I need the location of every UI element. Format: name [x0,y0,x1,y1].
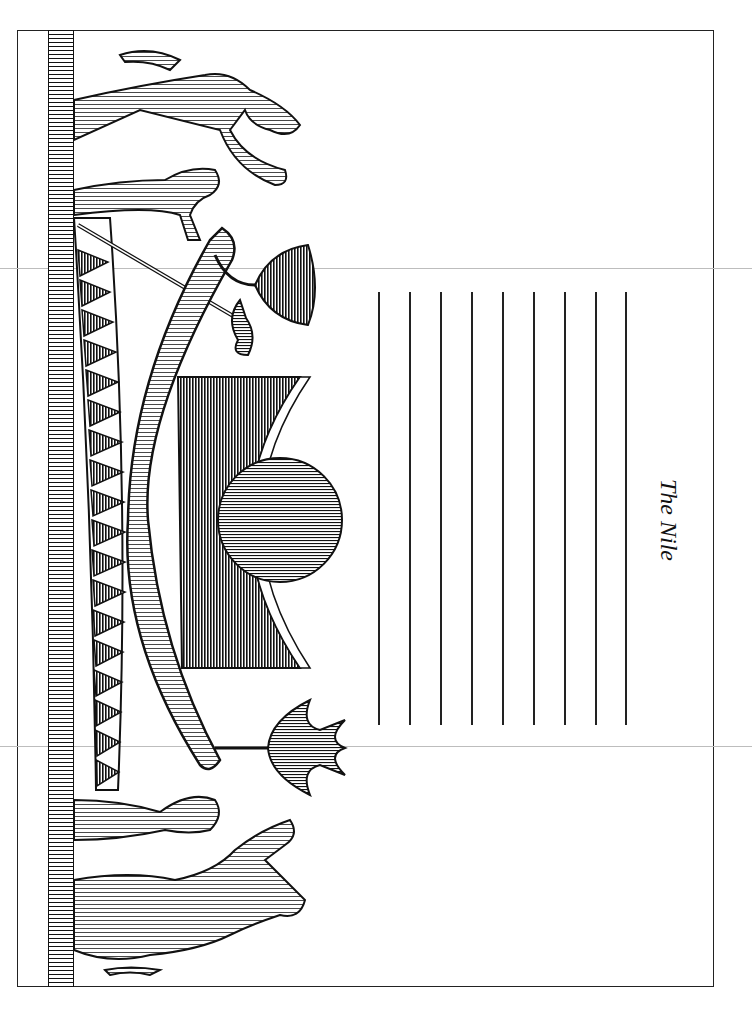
sun-disk [218,458,342,582]
writing-line [440,292,442,725]
writing-line [409,292,411,725]
nile-illustration [0,0,752,1023]
page-title: The Nile [655,479,682,561]
lotus-flower [215,700,345,795]
writing-line [625,292,627,725]
writing-line [502,292,504,725]
writing-line [595,292,597,725]
zigzag-triangle-band [74,218,125,790]
baboon-bottom-small [74,797,219,840]
baboon-top-large [74,74,300,185]
writing-line [378,292,380,725]
writing-line [533,292,535,725]
writing-line [471,292,473,725]
writing-line [564,292,566,725]
baboon-bottom-large [74,820,305,959]
